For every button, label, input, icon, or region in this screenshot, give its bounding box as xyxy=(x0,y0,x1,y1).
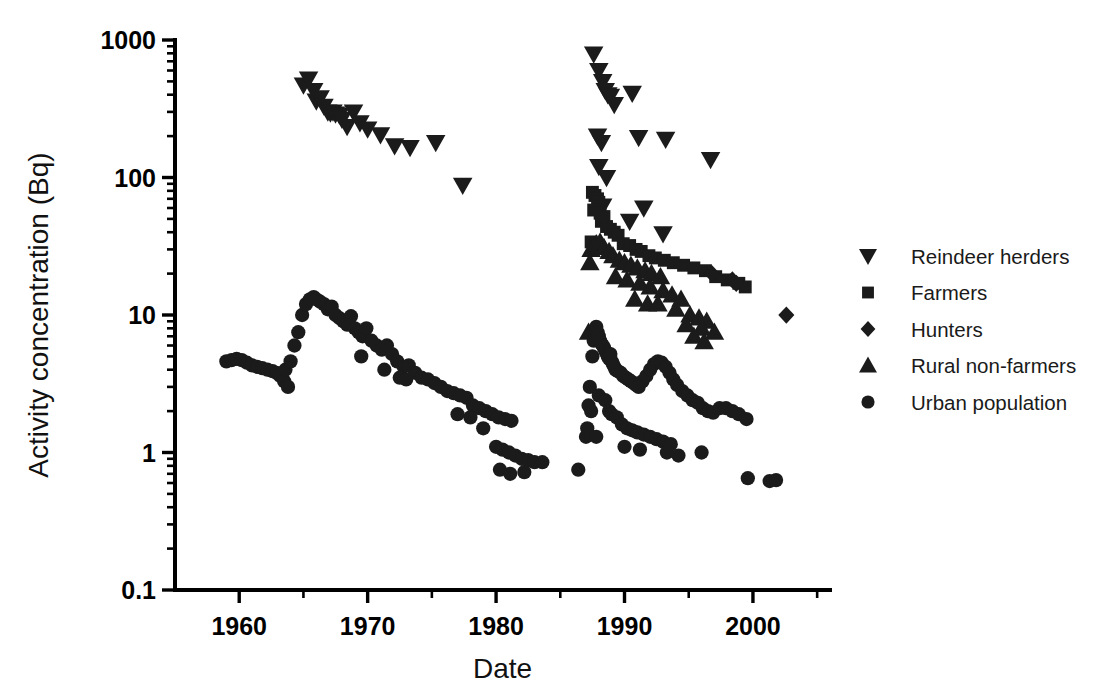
series-reindeer-herders xyxy=(294,47,721,244)
y-tick-label: 100 xyxy=(114,164,156,192)
legend-item-reindeer-herders[interactable]: Reindeer herders xyxy=(859,245,1069,268)
point-circle xyxy=(517,465,531,479)
point-diamond xyxy=(778,306,794,323)
point-circle xyxy=(476,421,490,435)
point-triangle-down xyxy=(604,97,624,114)
y-tick-label: 10 xyxy=(128,301,156,329)
x-tick-label: 1980 xyxy=(468,612,524,640)
point-triangle-down xyxy=(701,152,721,169)
point-circle xyxy=(281,380,295,394)
point-circle xyxy=(291,325,305,339)
x-tick-label: 1960 xyxy=(211,612,267,640)
figure-root: 0.1110100100019601970198019902000 DateAc… xyxy=(0,0,1103,699)
point-circle xyxy=(741,471,755,485)
point-triangle-down xyxy=(400,140,420,157)
point-circle xyxy=(359,321,373,335)
point-circle xyxy=(617,440,631,454)
point-circle xyxy=(739,412,753,426)
point-circle xyxy=(584,404,598,418)
point-circle xyxy=(503,467,517,481)
data-points-group xyxy=(219,47,794,489)
point-triangle-down xyxy=(620,214,640,231)
point-circle xyxy=(287,338,301,352)
point-circle xyxy=(504,414,518,428)
y-tick-label: 1000 xyxy=(100,26,156,54)
scatter-plot: 0.1110100100019601970198019902000 DateAc… xyxy=(0,0,1103,699)
y-axis-title: Activity concentration (Bq) xyxy=(23,152,54,477)
point-triangle-down xyxy=(622,86,642,103)
point-circle xyxy=(535,455,549,469)
point-triangle-down xyxy=(584,47,604,64)
point-circle xyxy=(344,309,358,323)
x-tick-label: 1990 xyxy=(597,612,653,640)
axes-group: 0.1110100100019601970198019902000 xyxy=(100,26,830,640)
legend-item-urban-population[interactable]: Urban population xyxy=(861,391,1067,414)
legend-label: Reindeer herders xyxy=(911,245,1069,268)
point-triangle-down xyxy=(597,170,617,187)
point-circle xyxy=(633,442,647,456)
point-square xyxy=(862,287,874,299)
point-circle xyxy=(585,349,599,363)
x-axis-title: Date xyxy=(473,653,532,684)
point-circle xyxy=(769,473,783,487)
point-circle xyxy=(571,463,585,477)
legend-item-hunters[interactable]: Hunters xyxy=(861,318,983,341)
point-triangle-down xyxy=(859,249,877,265)
point-circle xyxy=(450,407,464,421)
point-circle xyxy=(283,354,297,368)
y-tick-label: 0.1 xyxy=(121,576,156,604)
point-circle xyxy=(861,395,874,408)
point-circle xyxy=(354,349,368,363)
legend-item-farmers[interactable]: Farmers xyxy=(862,281,987,304)
point-circle xyxy=(399,372,413,386)
point-circle xyxy=(671,448,685,462)
legend-group: Reindeer herdersFarmersHuntersRural non-… xyxy=(859,245,1076,414)
point-triangle-up xyxy=(859,357,877,373)
point-circle xyxy=(589,430,603,444)
point-triangle-down xyxy=(592,135,612,152)
point-triangle-down xyxy=(426,135,446,152)
x-tick-label: 1970 xyxy=(340,612,396,640)
point-circle xyxy=(377,363,391,377)
point-triangle-up xyxy=(625,290,645,307)
legend-item-rural-non-farmers[interactable]: Rural non-farmers xyxy=(859,354,1076,377)
point-circle xyxy=(463,410,477,424)
point-circle xyxy=(694,445,708,459)
y-tick-label: 1 xyxy=(142,439,156,467)
point-triangle-down xyxy=(453,178,473,195)
point-triangle-down xyxy=(629,130,649,147)
point-triangle-down xyxy=(653,226,673,243)
legend-label: Rural non-farmers xyxy=(911,354,1076,377)
series-hunters xyxy=(704,265,795,324)
x-tick-label: 2000 xyxy=(725,612,781,640)
legend-label: Urban population xyxy=(911,391,1067,414)
point-square xyxy=(687,261,700,274)
point-diamond xyxy=(861,321,876,337)
legend-label: Hunters xyxy=(911,318,983,341)
legend-label: Farmers xyxy=(911,281,987,304)
point-triangle-down xyxy=(656,132,676,149)
